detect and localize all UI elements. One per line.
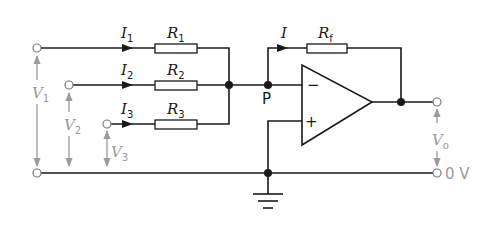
summing-junction-node <box>225 81 233 89</box>
current-label-i1: I1 <box>120 24 133 44</box>
resistor-label-r1: R1 <box>166 24 185 44</box>
current-arrow-icon <box>277 44 288 52</box>
resistor-label-r3: R3 <box>166 100 185 120</box>
voltage-arrow-v3: V3 <box>107 131 128 166</box>
non-inverting-input-sign: + <box>305 113 318 131</box>
current-label-i: I <box>280 24 288 42</box>
input-branch-3: I3 R3 <box>111 85 229 129</box>
op-amp: − + <box>302 65 372 145</box>
inverting-input-sign: − <box>307 76 320 94</box>
input-branch-2: I2 R2 <box>73 61 268 90</box>
resistor-rf <box>307 44 347 53</box>
output-terminal <box>433 98 441 106</box>
current-label-i3: I3 <box>120 100 133 120</box>
svg-text:V2: V2 <box>64 116 81 136</box>
input-terminal-v1 <box>33 44 41 52</box>
current-arrow-icon <box>122 81 133 89</box>
resistor-r3 <box>155 120 197 129</box>
zero-volt-label: 0 V <box>445 165 470 183</box>
ground-terminal-left <box>33 169 41 177</box>
resistor-label-r2: R2 <box>166 61 185 81</box>
current-label-i2: I2 <box>120 61 133 81</box>
node-p-label: P <box>262 90 271 108</box>
resistor-r1 <box>155 44 197 53</box>
resistor-label-rf: Rf <box>317 24 333 44</box>
feedback-path: I Rf <box>268 24 401 102</box>
input-branch-1: I1 R1 <box>41 24 229 85</box>
summing-amplifier-diagram: I1 R1 I2 R2 I3 R3 P I Rf − + <box>0 0 500 226</box>
input-terminal-v3 <box>103 120 111 128</box>
svg-text:V1: V1 <box>32 84 49 104</box>
svg-text:V3: V3 <box>111 143 128 163</box>
resistor-r2 <box>155 81 197 90</box>
ground-icon <box>253 169 283 208</box>
voltage-arrow-v2: V2 <box>64 93 81 166</box>
current-arrow-icon <box>122 120 133 128</box>
voltage-arrow-v1: V1 <box>32 56 49 166</box>
output-node <box>397 98 405 106</box>
current-arrow-icon <box>122 44 133 52</box>
svg-text:Vo: Vo <box>432 131 449 151</box>
voltage-arrow-vo: Vo <box>432 109 449 166</box>
input-terminal-v2 <box>65 81 73 89</box>
ground-terminal-right <box>433 169 441 177</box>
